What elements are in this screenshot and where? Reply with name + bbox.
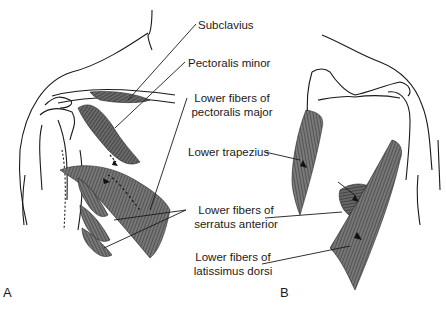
label-lower-latissimus-dorsi: Lower fibers of latissimus dorsi xyxy=(186,250,280,278)
lower-trapezius-muscle xyxy=(292,110,323,215)
label-line-1: Lower fibers of xyxy=(186,250,280,264)
lower-latissimus-muscle xyxy=(330,140,402,290)
label-lower-trapezius: Lower trapezius xyxy=(188,145,269,159)
pectoralis-major-lower-muscle xyxy=(60,166,170,258)
label-line-1: Lower fibers of xyxy=(188,203,284,217)
label-line-2: pectoralis major xyxy=(186,105,278,119)
panel-letter-b: B xyxy=(280,285,289,300)
label-pectoralis-minor: Pectoralis minor xyxy=(188,56,270,70)
label-line-2: serratus anterior xyxy=(188,217,284,231)
label-line-1: Lower fibers of xyxy=(186,91,278,105)
subclavius-muscle xyxy=(90,91,150,102)
arrowhead-icon xyxy=(112,160,118,166)
label-line-2: latissimus dorsi xyxy=(186,264,280,278)
label-lower-serratus-anterior: Lower fibers of serratus anterior xyxy=(188,203,284,231)
label-lower-pectoralis-major: Lower fibers of pectoralis major xyxy=(186,91,278,119)
label-subclavius: Subclavius xyxy=(198,18,254,32)
anatomy-figure: Subclavius Pectoralis minor Lower fibers… xyxy=(0,0,446,310)
panel-letter-a: A xyxy=(3,285,12,300)
